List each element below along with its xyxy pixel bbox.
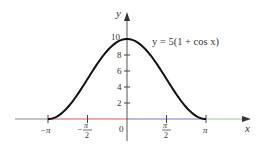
y-tick-label-8: 8 xyxy=(117,50,122,60)
x-tick-label-neg-half-pi: − π 2 xyxy=(77,121,92,140)
equation-label: y = 5(1 + cos x) xyxy=(152,36,219,48)
chart-canvas: y x 10 8 6 4 2 0 −π − π 2 π 2 π y = 5(1 … xyxy=(0,0,264,149)
svg-text:π: π xyxy=(163,121,168,130)
svg-text:−: − xyxy=(77,124,82,134)
x-tick-label-neg-pi: −π xyxy=(40,125,51,135)
y-axis xyxy=(124,12,130,141)
svg-text:2: 2 xyxy=(85,131,89,140)
x-tick-label-pi: π xyxy=(203,125,208,135)
y-axis-label: y xyxy=(115,7,121,19)
x-tick-label-half-pi: π 2 xyxy=(162,121,171,140)
svg-text:π: π xyxy=(84,121,89,130)
y-tick-label-10: 10 xyxy=(111,32,121,42)
y-axis-arrow-icon xyxy=(124,12,130,21)
y-tick-label-4: 4 xyxy=(117,82,122,92)
y-tick-label-2: 2 xyxy=(117,98,122,108)
x-axis-label: x xyxy=(244,122,250,134)
y-tick-label-6: 6 xyxy=(117,66,122,76)
origin-label: 0 xyxy=(119,124,124,134)
svg-text:2: 2 xyxy=(164,131,168,140)
